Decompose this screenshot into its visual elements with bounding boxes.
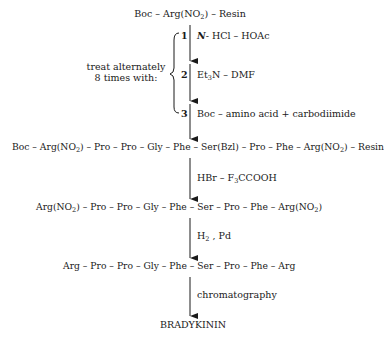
step-1-number: 1 [181,30,188,42]
step-2-reagent: Et3N – DMF [197,69,255,81]
product-name: BRADYKININ [160,319,226,331]
cleave-reagent-b: CCOOH [238,172,276,183]
starting-material: Boc – Arg(NO2) – Resin [134,8,246,20]
step-1-reagent-n: N [197,30,206,41]
step-2-reagent-b: N – DMF [212,69,255,80]
cleave-reagent: HBr – F3CCOOH [197,172,277,184]
protected-peptide-a: Boc – Arg(NO [12,141,76,152]
step-2-reagent-a: Et [197,69,208,80]
protected-peptide-b: ) – Pro – Pro – Gly – Phe – Ser(Bzl) – P… [80,141,340,152]
step-1-reagent: N- HCl – HOAc [197,30,270,42]
purification-step: chromatography [197,289,277,301]
step-3-number: 3 [181,108,188,120]
cycle-note: treat alternately 8 times with: [78,61,174,83]
start-text-b: ) – Resin [204,8,245,19]
start-text-a: Boc – Arg(NO [134,8,200,19]
cycle-note-line2: 8 times with: [78,72,174,83]
cleaved-peptide: Arg(NO2) – Pro – Pro – Gly – Phe – Ser –… [36,201,322,213]
protected-peptide-c: ) – Resin [344,141,384,152]
cleaved-peptide-a: Arg(NO [36,201,72,212]
free-peptide: Arg – Pro – Pro – Gly – Phe – Ser – Pro … [63,260,295,272]
cleave-reagent-a: HBr – F [197,172,234,183]
hydrogenation-reagent-b: , Pd [209,230,231,241]
step-3-reagent: Boc – amino acid + carbodiimide [197,108,356,120]
cleaved-peptide-c: ) [318,201,322,212]
step-2-number: 2 [181,69,188,81]
cleaved-peptide-b: ) – Pro – Pro – Gly – Phe – Ser – Pro – … [76,201,314,212]
hydrogenation-reagent: H2 , Pd [197,230,231,242]
protected-peptide: Boc – Arg(NO2) – Pro – Pro – Gly – Phe –… [12,141,384,153]
cycle-note-line1: treat alternately [78,61,174,72]
step-1-reagent-rest: - HCl – HOAc [206,30,270,41]
